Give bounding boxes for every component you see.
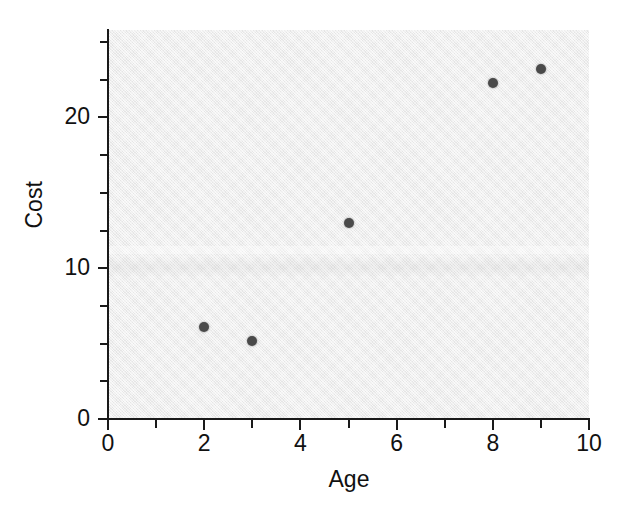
x-axis-tick-label: 2 (174, 432, 234, 455)
y-axis-minor-tick (100, 305, 108, 307)
plot-area (108, 30, 589, 419)
y-axis-minor-tick (100, 41, 108, 43)
x-axis-minor-tick (348, 420, 350, 428)
data-point (488, 78, 498, 88)
x-axis-major-tick (107, 420, 109, 430)
y-axis-tick-label: 10 (38, 256, 90, 279)
scan-shadow-band (108, 256, 589, 278)
y-axis-line (107, 29, 109, 420)
y-axis-tick-label: 0 (38, 407, 90, 430)
x-axis-title: Age (289, 466, 409, 493)
data-point (344, 218, 354, 228)
y-axis-minor-tick (100, 154, 108, 156)
data-point (199, 322, 209, 332)
x-axis-major-tick (396, 420, 398, 430)
x-axis-major-tick (492, 420, 494, 430)
x-axis-tick-label: 8 (463, 432, 523, 455)
y-axis-major-tick (98, 267, 108, 269)
x-axis-tick-label: 10 (559, 432, 619, 455)
x-axis-tick-label: 0 (78, 432, 138, 455)
y-axis-tick-label: 20 (38, 105, 90, 128)
y-axis-title: Cost (21, 189, 48, 229)
data-point (536, 64, 546, 74)
x-axis-minor-tick (155, 420, 157, 428)
x-axis-tick-label: 6 (367, 432, 427, 455)
y-axis-minor-tick (100, 230, 108, 232)
y-axis-minor-tick (100, 380, 108, 382)
y-axis-minor-tick (100, 343, 108, 345)
x-axis-major-tick (299, 420, 301, 430)
x-axis-major-tick (203, 420, 205, 430)
x-axis-tick-label: 4 (270, 432, 330, 455)
y-axis-minor-tick (100, 79, 108, 81)
x-axis-minor-tick (444, 420, 446, 428)
x-axis-minor-tick (251, 420, 253, 428)
x-axis-major-tick (588, 420, 590, 430)
scatter-plot-figure: 01020 0246810 Cost Age (0, 0, 631, 508)
data-point (247, 336, 257, 346)
x-axis-minor-tick (540, 420, 542, 428)
y-axis-major-tick (98, 116, 108, 118)
scan-highlight-band (108, 246, 589, 254)
y-axis-minor-tick (100, 192, 108, 194)
